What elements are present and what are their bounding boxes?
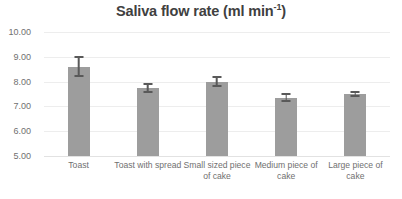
y-axis-tick-label: 10.00 — [0, 27, 36, 37]
bar-group[interactable] — [113, 32, 182, 156]
x-axis-tick-label: Toast with spread — [113, 160, 182, 171]
chart-title-main: Saliva flow rate (ml min — [116, 3, 274, 19]
error-bar — [143, 83, 152, 93]
bar[interactable] — [137, 88, 159, 156]
bar-group[interactable] — [44, 32, 113, 156]
bar-group[interactable] — [321, 32, 390, 156]
plot-area: 10.009.008.007.006.005.00 — [44, 32, 390, 156]
gridline — [44, 156, 390, 157]
chart-title: Saliva flow rate (ml min-1) — [0, 3, 402, 19]
y-axis-tick-label: 5.00 — [0, 151, 36, 161]
bar[interactable] — [344, 94, 366, 156]
bar[interactable] — [206, 82, 228, 156]
error-bar-cap-bottom — [143, 91, 152, 93]
y-axis-tick-label: 6.00 — [0, 126, 36, 136]
bar-group[interactable] — [182, 32, 251, 156]
x-axis-tick-label: Small sized piece of cake — [182, 160, 251, 182]
error-bar-cap-bottom — [74, 75, 83, 77]
error-bar-cap-top — [143, 83, 152, 85]
x-axis-tick-label: Large piece of cake — [321, 160, 390, 182]
bars-layer — [44, 32, 390, 156]
error-bar-cap-bottom — [212, 85, 221, 87]
x-axis-tick-labels: ToastToast with spreadSmall sized piece … — [44, 160, 390, 196]
y-axis-tick-label: 9.00 — [0, 52, 36, 62]
error-bar-cap-top — [282, 93, 291, 95]
error-bar-cap-top — [212, 76, 221, 78]
bar-group[interactable] — [252, 32, 321, 156]
error-bar-cap-bottom — [282, 100, 291, 102]
error-bar — [351, 91, 360, 97]
bar[interactable] — [68, 67, 90, 156]
error-bar-stem — [78, 56, 80, 77]
error-bar — [212, 76, 221, 87]
error-bar-cap-top — [74, 56, 83, 58]
x-axis-tick-label: Medium piece of cake — [252, 160, 321, 182]
error-bar — [282, 93, 291, 102]
y-axis-tick-label: 8.00 — [0, 77, 36, 87]
x-axis-tick-label: Toast — [44, 160, 113, 171]
chart-title-tail: ) — [281, 3, 286, 19]
error-bar-cap-top — [351, 91, 360, 93]
bar[interactable] — [275, 98, 297, 156]
error-bar-cap-bottom — [351, 95, 360, 97]
y-axis-tick-label: 7.00 — [0, 101, 36, 111]
error-bar — [74, 56, 83, 77]
bar-chart: Saliva flow rate (ml min-1) 10.009.008.0… — [0, 0, 402, 199]
